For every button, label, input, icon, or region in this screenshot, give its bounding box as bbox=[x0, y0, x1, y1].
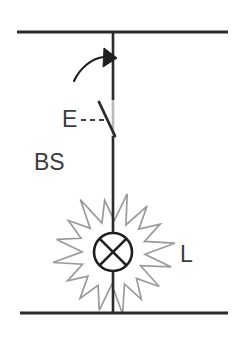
circuit-diagram-canvas: E BS L bbox=[0, 0, 247, 344]
label-bs: BS bbox=[34, 149, 65, 175]
label-e: E bbox=[62, 106, 77, 132]
label-l: L bbox=[180, 241, 193, 267]
actuation-arrow-curve bbox=[74, 57, 104, 81]
actuation-arrow-head bbox=[103, 48, 117, 67]
circuit-schematic: E BS L bbox=[0, 0, 247, 344]
